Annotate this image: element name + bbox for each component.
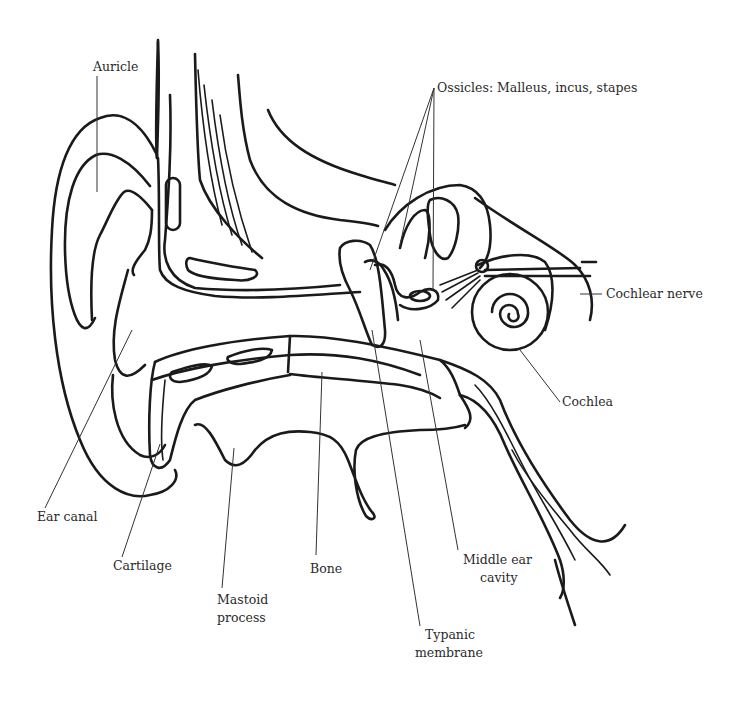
label-cartilage: Cartilage xyxy=(113,557,172,575)
label-middle-ear-line2: cavity xyxy=(480,569,518,587)
label-middle-ear-line1: Middle ear xyxy=(463,551,532,569)
label-ossicles: Ossicles: Malleus, incus, stapes xyxy=(437,79,637,97)
label-bone: Bone xyxy=(310,560,342,578)
label-typanic-line2: membrane xyxy=(415,644,483,662)
middle-inner-ear xyxy=(339,185,596,350)
auricle-outline xyxy=(51,40,176,496)
label-ear-canal: Ear canal xyxy=(37,508,97,526)
label-mastoid-line1: Mastoid xyxy=(217,591,268,609)
label-auricle: Auricle xyxy=(93,58,138,76)
label-cochlea: Cochlea xyxy=(562,393,613,411)
label-typanic-line1: Typanic xyxy=(425,626,475,644)
canal-floor xyxy=(149,336,625,625)
ear-canal-walls xyxy=(158,54,395,297)
ear-anatomy-diagram: Auricle Ossicles: Malleus, incus, stapes… xyxy=(0,0,756,701)
label-cochlear-nerve: Cochlear nerve xyxy=(606,285,703,303)
ear-line-art xyxy=(0,0,756,701)
leader-lines xyxy=(45,76,602,626)
label-mastoid-line2: process xyxy=(217,609,266,627)
